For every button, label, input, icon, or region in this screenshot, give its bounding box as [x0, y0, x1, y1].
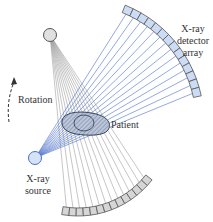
ct-scanner-diagram: X-ray detector array Rotation Patient X-… [0, 0, 213, 222]
rotation-label: Rotation [18, 94, 52, 105]
detector-label-line1: X-ray [181, 23, 204, 34]
xray-source-icon [29, 152, 42, 165]
beam-ray [50, 35, 144, 178]
patient-label: Patient [111, 119, 139, 130]
detector-label-line3: array [183, 47, 204, 58]
detector-element [69, 208, 76, 216]
detector-element [191, 87, 201, 97]
source-label-line2: source [25, 185, 52, 196]
beam-ray [35, 63, 180, 158]
beam-ray [50, 35, 134, 187]
detector-label-line2: detector [177, 35, 210, 46]
detector-element [76, 208, 83, 216]
source-label-line1: X-ray [26, 173, 49, 184]
rotation-arrow-icon [8, 77, 17, 122]
patient-cross-section [62, 112, 110, 135]
detector-element [62, 207, 70, 216]
beam-ray [50, 35, 139, 182]
previous-xray-source-icon [44, 29, 57, 42]
